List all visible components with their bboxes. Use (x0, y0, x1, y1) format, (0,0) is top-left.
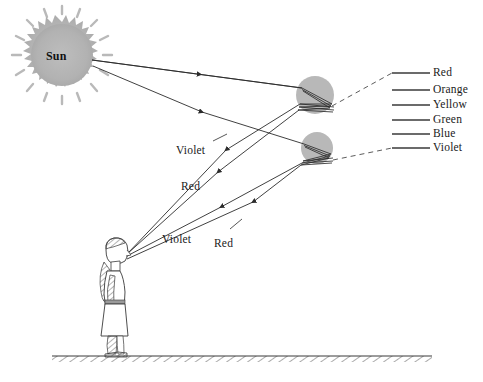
incident-rays (92, 60, 304, 144)
label-leader-lines (213, 134, 242, 229)
spectrum-label-blue: Blue (433, 127, 456, 139)
ray-label-red-middle: Red (181, 180, 200, 192)
ground-line (52, 356, 432, 362)
ray-label-violet-upper: Violet (176, 144, 205, 156)
ray-label-violet-lower: Violet (162, 233, 191, 245)
spectrum-bar-group (392, 73, 430, 148)
spectrum-label-violet: Violet (433, 141, 462, 153)
diagram-canvas: Sun Violet Red Violet Red RedOrangeYello… (0, 0, 483, 382)
spectrum-label-orange: Orange (433, 83, 468, 95)
dashed-spectrum-lines (332, 73, 392, 160)
spectrum-label-green: Green (433, 113, 462, 125)
spectrum-label-red: Red (433, 66, 452, 78)
sun-label: Sun (46, 49, 67, 64)
spectrum-label-yellow: Yellow (433, 98, 467, 110)
person-observer (100, 238, 131, 357)
rays-to-observer (125, 104, 302, 259)
ray-label-red-lower: Red (214, 237, 233, 249)
rainbow-diagram (0, 0, 483, 382)
